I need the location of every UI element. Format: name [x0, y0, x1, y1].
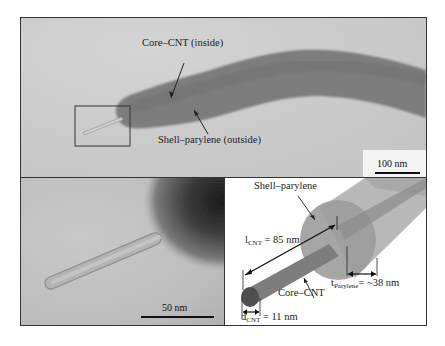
cnt-core-end: [241, 287, 259, 307]
core-cnt-label: Core–CNT (inside): [142, 37, 223, 48]
cnt-tube: [43, 231, 163, 291]
tem-zoom-image: [21, 178, 225, 325]
tem-panel-zoom: 50 nm: [21, 178, 225, 325]
l-cnt-label: lCNT = 85 nm: [245, 234, 300, 247]
shell-parylene-label: Shell–parylene (outside): [158, 134, 261, 145]
parylene-shell-blob: [131, 178, 225, 276]
tem-panel-top: Core–CNT (inside) Shell–parylene (outsid…: [21, 18, 426, 178]
scale-bar-50nm: [141, 316, 214, 318]
core-shell-schematic: [225, 178, 426, 325]
shell-parylene-body: [116, 50, 426, 129]
d-cnt-label: dCNT = 11 nm: [241, 311, 298, 324]
figure: Core–CNT (inside) Shell–parylene (outsid…: [20, 17, 427, 326]
scale-bar-100nm: [375, 172, 420, 174]
schematic-panel: Shell–parylene Core–CNT lCNT = 85 nm tPa…: [225, 178, 426, 325]
scale-bar-label-50nm: 50 nm: [162, 302, 187, 313]
t-parylene-label: tParylene= ~38 nm: [331, 277, 399, 290]
schematic-core-label: Core–CNT: [278, 287, 325, 298]
scale-bar-label-100nm: 100 nm: [377, 158, 407, 169]
schematic-shell-label: Shell–parylene: [254, 180, 317, 191]
